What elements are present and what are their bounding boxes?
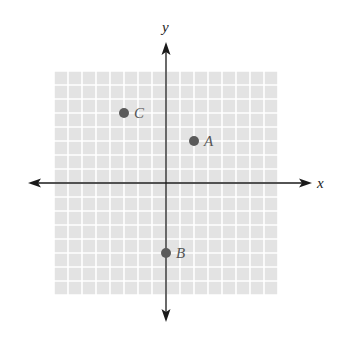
point-marker-icon — [161, 248, 171, 258]
point-label: B — [176, 245, 185, 261]
point-label: A — [203, 133, 214, 149]
coordinate-plane: x y ABC — [0, 0, 339, 340]
x-axis-label: x — [316, 175, 324, 191]
y-axis-label: y — [160, 19, 169, 35]
point-marker-icon — [119, 108, 129, 118]
point-label: C — [134, 105, 145, 121]
point-marker-icon — [189, 136, 199, 146]
